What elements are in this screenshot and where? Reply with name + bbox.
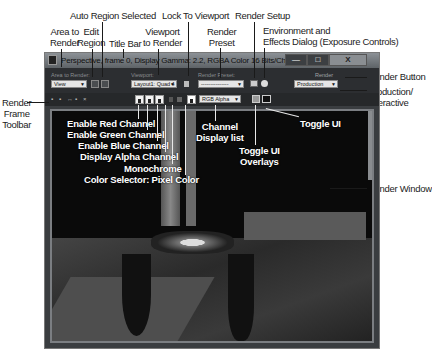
lock-icon[interactable] <box>184 81 189 87</box>
callout-monochrome: Monochrome <box>124 163 182 174</box>
callout-title-bar: Title Bar <box>109 38 141 49</box>
callout-toggle-ui-overlays: Toggle UI Overlays <box>239 145 280 167</box>
table-leg <box>228 254 254 341</box>
title-bar[interactable]: Perspective, frame 0, Display Gamma: 2.2… <box>45 53 379 68</box>
channel-display-value: RGB Alpha <box>202 96 229 102</box>
leader-line <box>102 22 103 77</box>
leader-line <box>220 48 221 78</box>
leader-line <box>185 105 186 175</box>
channel-display-list[interactable]: RGB Alpha▼ <box>199 95 241 103</box>
render-preset-dropdown[interactable]: ---------------▼ <box>198 80 244 88</box>
vertical-scrollbar[interactable] <box>368 111 372 180</box>
leader-line <box>264 48 265 78</box>
callout-display-alpha-channel: Display Alpha Channel <box>80 151 178 162</box>
minimize-button[interactable]: — <box>285 54 307 66</box>
leader-line <box>340 90 367 91</box>
viewport-value: Layout1: Quad 4 <box>134 81 175 87</box>
mode-value: Production <box>297 81 323 87</box>
edit-region-button[interactable] <box>91 80 99 88</box>
display-alpha-channel-toggle[interactable] <box>169 97 173 102</box>
chevron-down-icon: ▼ <box>331 81 336 87</box>
monochrome-toggle[interactable] <box>177 97 182 102</box>
area-to-render-value: View <box>54 81 66 87</box>
leader-line <box>158 49 159 75</box>
enable-red-channel-toggle[interactable] <box>135 95 144 104</box>
leader-line <box>147 105 148 130</box>
leader-line <box>27 102 49 103</box>
clear-icon[interactable]: × <box>83 96 89 102</box>
callout-toggle-ui: Toggle UI <box>300 118 341 129</box>
rendered-couch <box>244 212 366 240</box>
area-to-render-dropdown[interactable]: View▼ <box>51 80 87 88</box>
close-button[interactable]: X <box>329 54 367 66</box>
callout-color-selector: Color Selector: Pixel Color <box>84 174 199 185</box>
render-preset-value: --------------- <box>201 81 228 87</box>
chevron-down-icon: ▼ <box>234 96 239 102</box>
callout-render-preset: Render Preset <box>207 26 236 48</box>
leader-line <box>215 105 216 121</box>
area-to-render-label: Area to Render: <box>51 72 90 79</box>
auto-region-selected-button[interactable] <box>101 80 109 88</box>
callout-render-setup: Render Setup <box>235 10 290 21</box>
maximize-button[interactable]: □ <box>307 54 329 66</box>
viewport-label: Viewport: <box>131 72 154 79</box>
render-button[interactable]: Render <box>315 72 333 79</box>
environment-effects-icon[interactable] <box>261 80 268 87</box>
rendered-pillar <box>186 111 196 226</box>
callout-viewport-to-render: Viewport to Render <box>143 26 182 48</box>
leader-line <box>157 105 158 141</box>
toggle-ui-button[interactable] <box>262 95 271 103</box>
leader-line <box>165 105 166 152</box>
leader-line <box>254 22 255 78</box>
chevron-down-icon: ▼ <box>170 81 175 87</box>
enable-blue-channel-toggle[interactable] <box>155 95 164 104</box>
leader-line <box>172 105 173 164</box>
callout-enable-blue-channel: Enable Blue Channel <box>78 140 169 151</box>
callout-enable-red-channel: Enable Red Channel <box>67 118 155 129</box>
render-preset-label: Render Preset: <box>198 72 235 79</box>
leader-line <box>123 49 124 58</box>
clone-frame-icon[interactable]: ↔ <box>67 96 73 102</box>
render-frame-toolbar: ▪ ▪ ↔ ▪ × RGB Alpha▼ <box>45 93 379 106</box>
render-controls-bar: Area to Render: View▼ Viewport: Layout1:… <box>45 68 379 93</box>
callout-lock-to-viewport: Lock To Viewport <box>162 10 229 21</box>
leader-line <box>330 188 367 189</box>
rendered-chess-table <box>151 231 234 254</box>
viewport-dropdown[interactable]: Layout1: Quad 4▼ <box>131 80 177 88</box>
rendered-frame-window: Perspective, frame 0, Display Gamma: 2.2… <box>44 52 380 349</box>
render-setup-icon[interactable] <box>250 80 258 87</box>
leader-line <box>255 105 256 145</box>
production-interactive-dropdown[interactable]: Production▼ <box>294 80 338 88</box>
app-icon <box>48 55 57 65</box>
callout-enable-green-channel: Enable Green Channel <box>67 129 164 140</box>
color-selector-pixel-color[interactable] <box>187 95 196 104</box>
copy-image-icon[interactable]: ▪ <box>59 96 65 102</box>
chevron-down-icon: ▼ <box>237 81 242 87</box>
leader-line <box>188 22 189 76</box>
print-icon[interactable]: ▪ <box>75 96 81 102</box>
callout-auto-region-selected: Auto Region Selected <box>70 10 156 21</box>
leader-line <box>61 49 62 67</box>
callout-area-to-render: Area to Render <box>50 26 79 48</box>
window-title: Perspective, frame 0, Display Gamma: 2.2… <box>61 55 322 66</box>
save-image-icon[interactable]: ▪ <box>51 96 57 102</box>
leader-line <box>345 77 367 78</box>
leader-line <box>92 49 93 77</box>
callout-environment-effects: Environment and Effects Dialog (Exposure… <box>263 25 398 47</box>
enable-green-channel-toggle[interactable] <box>145 95 154 104</box>
chevron-down-icon: ▼ <box>80 81 85 87</box>
toggle-ui-overlays-button[interactable] <box>252 95 260 103</box>
callout-channel-display-list: Channel Display list <box>196 121 244 143</box>
leader-line <box>138 105 139 119</box>
